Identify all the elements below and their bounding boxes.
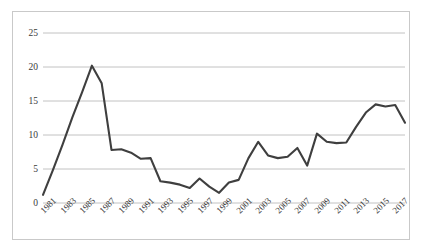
gridlines [43,33,405,203]
y-axis-tick-label: 5 [14,164,38,174]
y-axis-tick-label: 25 [14,28,38,38]
y-axis-tick-label: 0 [14,198,38,208]
data-series-line [43,66,405,195]
y-axis-tick-label: 20 [14,62,38,72]
y-axis-tick-label: 10 [14,130,38,140]
y-axis-tick-label: 15 [14,96,38,106]
